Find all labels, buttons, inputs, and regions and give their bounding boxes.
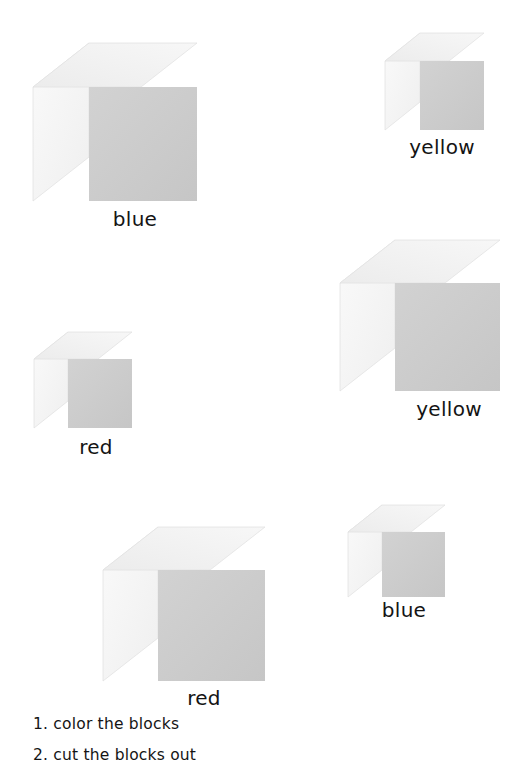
cube-top-face bbox=[385, 33, 484, 61]
instruction-line-1: 1. color the blocks bbox=[33, 716, 493, 733]
cube-block-blue bbox=[348, 505, 445, 597]
cube-top-face bbox=[340, 240, 500, 283]
cube-block-blue bbox=[33, 43, 197, 201]
cube-top-face bbox=[34, 332, 132, 359]
cube-right-face bbox=[89, 87, 197, 201]
cube-right-face bbox=[68, 359, 132, 428]
instructions-list: 1. color the blocks2. cut the blocks out bbox=[33, 716, 493, 769]
instruction-line-2: 2. cut the blocks out bbox=[33, 747, 493, 764]
block-label-blue: blue bbox=[373, 600, 435, 620]
block-label-red: red bbox=[72, 437, 120, 457]
cube-right-face bbox=[395, 283, 500, 391]
cube-block-red bbox=[103, 527, 265, 681]
cube-block-yellow bbox=[340, 240, 500, 391]
cube-top-face bbox=[33, 43, 197, 87]
cube-block-red bbox=[34, 332, 132, 428]
block-label-blue: blue bbox=[104, 209, 166, 229]
cube-right-face bbox=[382, 532, 445, 597]
cube-top-face bbox=[348, 505, 445, 532]
cube-block-yellow bbox=[385, 33, 484, 130]
block-label-yellow: yellow bbox=[410, 399, 488, 419]
cube-right-face bbox=[158, 570, 265, 681]
block-label-yellow: yellow bbox=[403, 137, 481, 157]
cube-top-face bbox=[103, 527, 265, 570]
worksheet-page: blueyellowyellowredredblue1. color the b… bbox=[0, 0, 530, 769]
block-label-red: red bbox=[180, 688, 228, 708]
cube-right-face bbox=[420, 61, 484, 130]
